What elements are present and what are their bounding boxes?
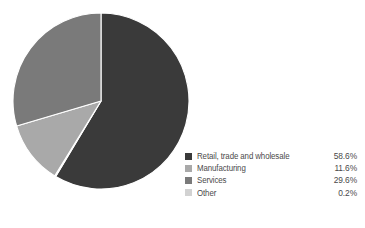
pie-chart-canvas xyxy=(12,11,190,191)
legend-value-other: 0.2% xyxy=(323,187,357,199)
legend-swatch-other xyxy=(185,189,192,196)
legend-label-other: Other xyxy=(197,187,315,199)
legend-label-manufacturing: Manufacturing xyxy=(197,162,315,174)
legend-item-other[interactable]: Other 0.2% xyxy=(185,187,357,199)
legend-value-services: 29.6% xyxy=(323,174,357,186)
legend-swatch-services xyxy=(185,177,192,184)
legend-swatch-manufacturing xyxy=(185,165,192,172)
legend-value-manufacturing: 11.6% xyxy=(323,162,357,174)
legend-value-retail: 58.6% xyxy=(323,150,357,162)
legend-label-services: Services xyxy=(197,174,315,186)
pie-chart-figure: Retail, trade and wholesale 58.6% Manufa… xyxy=(0,0,365,228)
legend-label-retail: Retail, trade and wholesale xyxy=(197,150,315,162)
pie-slice-group xyxy=(13,13,189,189)
legend-item-retail[interactable]: Retail, trade and wholesale 58.6% xyxy=(185,150,357,162)
legend-item-services[interactable]: Services 29.6% xyxy=(185,174,357,186)
legend-item-manufacturing[interactable]: Manufacturing 11.6% xyxy=(185,162,357,174)
legend-swatch-retail xyxy=(185,153,192,160)
pie-svg xyxy=(12,11,190,191)
chart-legend: Retail, trade and wholesale 58.6% Manufa… xyxy=(185,150,357,199)
